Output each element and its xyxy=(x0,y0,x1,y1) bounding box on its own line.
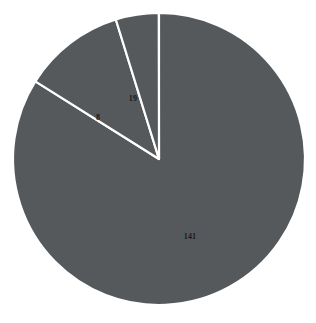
pie-chart-canvas xyxy=(0,0,316,323)
pie-slice-label-141: 141 xyxy=(184,233,197,241)
pie-slice-label-8: 8 xyxy=(96,114,100,122)
pie-slice-group xyxy=(13,13,305,305)
pie-slice-label-19: 19 xyxy=(129,95,137,103)
pie-chart: 141198 xyxy=(0,0,316,323)
